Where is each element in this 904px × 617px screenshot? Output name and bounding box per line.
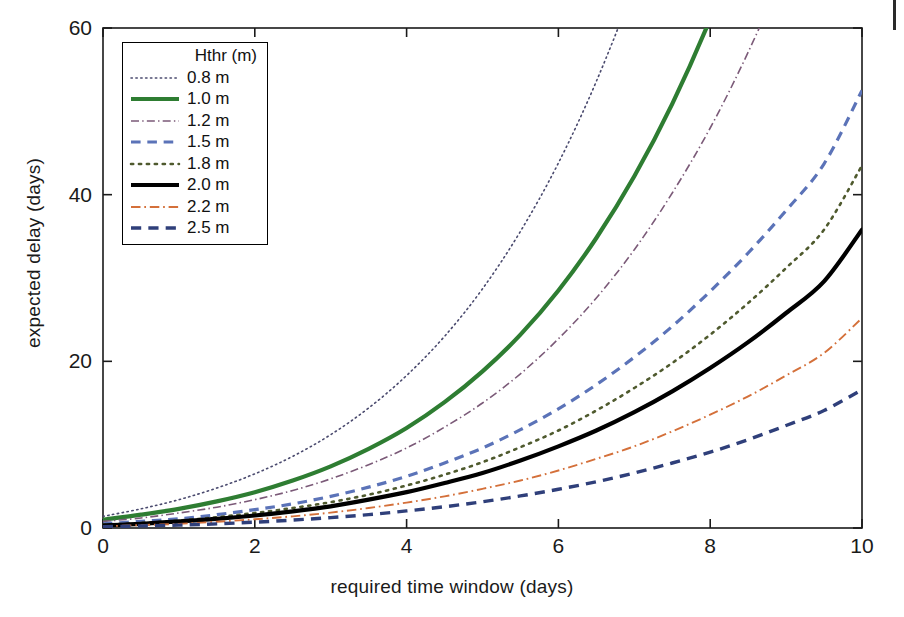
legend-item-label: 2.2 m: [187, 197, 230, 217]
legend-line-sample: [129, 177, 181, 193]
legend-item-label: 1.0 m: [187, 89, 230, 109]
legend-line-sample: [129, 91, 181, 107]
x-tick-label: 6: [553, 534, 565, 558]
legend-item-label: 1.5 m: [187, 132, 230, 152]
legend-line-sample: [129, 220, 181, 236]
legend-title: Hthr (m): [123, 46, 267, 66]
x-tick-label: 10: [850, 534, 873, 558]
series-line-2_0_m: [103, 230, 862, 526]
chart-figure: expected delay (days) required time wind…: [0, 0, 904, 617]
legend-item: 1.0 m: [123, 89, 267, 111]
x-tick-label: 2: [249, 534, 261, 558]
x-tick-label: 4: [401, 534, 413, 558]
legend-line-sample: [129, 199, 181, 215]
page-edge-mark: [893, 0, 896, 30]
legend-item-label: 1.2 m: [187, 111, 230, 131]
series-line-2_2_m: [103, 318, 862, 526]
x-tick-label: 8: [704, 534, 716, 558]
legend-item-label: 0.8 m: [187, 68, 230, 88]
legend-line-sample: [129, 113, 181, 129]
x-axis-label: required time window (days): [0, 576, 904, 598]
y-tick-label: 20: [40, 349, 92, 373]
y-axis-label-wrapper: expected delay (days): [23, 53, 45, 453]
legend-item-label: 1.8 m: [187, 154, 230, 174]
x-tick-label: 0: [97, 534, 109, 558]
y-tick-label: 0: [40, 516, 92, 540]
series-line-2_5_m: [103, 390, 862, 527]
y-tick-label: 60: [40, 16, 92, 40]
legend-item: 2.0 m: [123, 175, 267, 197]
y-tick-label: 40: [40, 183, 92, 207]
legend-item: 2.2 m: [123, 196, 267, 218]
legend-item: 0.8 m: [123, 67, 267, 89]
legend-item: 1.8 m: [123, 153, 267, 175]
legend-line-sample: [129, 70, 181, 86]
legend-line-sample: [129, 156, 181, 172]
legend-entries: 0.8 m1.0 m1.2 m1.5 m1.8 m2.0 m2.2 m2.5 m: [123, 67, 267, 239]
legend-item-label: 2.5 m: [187, 218, 230, 238]
legend-item: 1.5 m: [123, 132, 267, 154]
legend-item-label: 2.0 m: [187, 175, 230, 195]
legend-line-sample: [129, 134, 181, 150]
legend-item: 1.2 m: [123, 110, 267, 132]
legend-item: 2.5 m: [123, 218, 267, 240]
legend: Hthr (m) 0.8 m1.0 m1.2 m1.5 m1.8 m2.0 m2…: [122, 42, 268, 245]
